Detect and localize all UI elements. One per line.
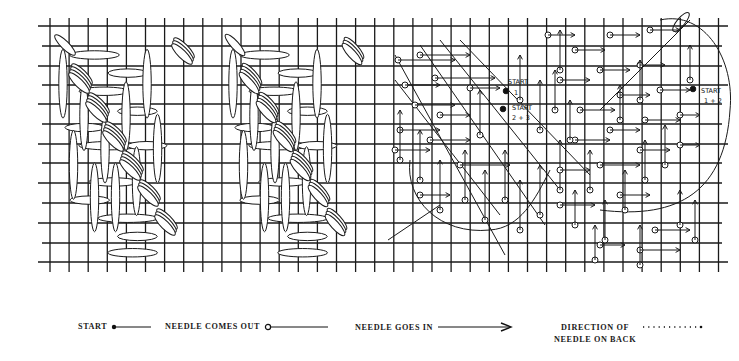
legend-direction-line1: DIRECTION OF [554,322,636,334]
legend-direction-back: DIRECTION OF NEEDLE ON BACK [554,322,704,346]
legend-needle-in-label: NEEDLE GOES IN [355,323,433,332]
start-1-number: 1 [514,89,518,97]
start-12-label: START [701,87,721,95]
start-12-number: 1 + 2 [704,97,722,105]
start-23-number: 2 + 3 [512,114,530,122]
start-23-label: START [512,104,532,112]
panel-working-diagram-2 [545,10,731,268]
start-1-label: START [508,78,528,86]
legend-needle-out: NEEDLE COMES OUT [165,322,330,331]
arrow-line-icon [437,322,513,332]
legend-needle-in: NEEDLE GOES IN [355,322,513,332]
legend: START NEEDLE COMES OUT NEEDLE GOES IN DI… [0,316,739,361]
open-circle-line-icon [264,323,330,331]
legend-direction-back-label: DIRECTION OF NEEDLE ON BACK [554,322,636,346]
dotted-line-icon [642,323,704,331]
legend-start-label: START [78,322,107,331]
legend-direction-line2: NEEDLE ON BACK [554,334,636,346]
filled-dot-line-icon [111,323,153,331]
legend-needle-out-label: NEEDLE COMES OUT [165,322,260,331]
legend-start: START [78,322,153,331]
stitch-diagram: START 1 START 2 + 3 START 1 + 2 [0,0,739,300]
